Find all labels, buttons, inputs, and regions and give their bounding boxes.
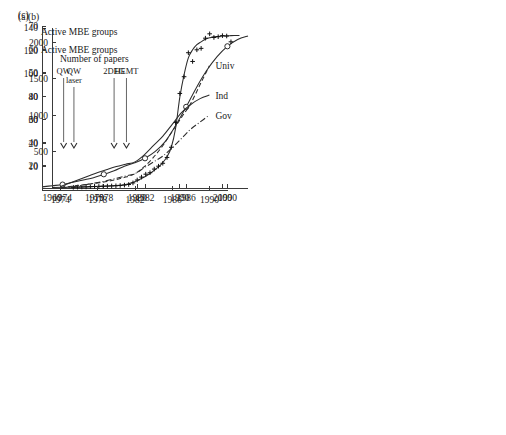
x-tick-label: 1978	[88, 195, 107, 205]
x-tick-label: 1990	[200, 195, 219, 205]
y-tick-label: 70	[29, 21, 39, 31]
figure-root: (a) Active MBE groups 204060801001201401…	[0, 0, 506, 435]
panel-c-annotation: Active MBE groups	[41, 27, 118, 37]
y-tick-label: 20	[29, 139, 39, 149]
y-tick-label: 10	[29, 162, 39, 172]
panel-c-plot-area: 1020304050607019741978198219861990UnivIn…	[29, 21, 235, 205]
panel-c-series-label-univ: Univ	[215, 61, 234, 71]
y-tick-label: 50	[29, 68, 39, 78]
panel-c-series-univ	[61, 66, 210, 188]
y-tick-label: 40	[29, 92, 39, 102]
x-tick-label: 1974	[51, 195, 70, 205]
panel-c-chart: (c) Active MBE groups 102030405060701974…	[0, 0, 506, 222]
x-tick-label: 1986	[163, 195, 182, 205]
panel-c-series-label-ind: Ind	[215, 91, 228, 101]
y-tick-label: 30	[29, 115, 39, 125]
y-tick-label: 60	[29, 45, 39, 55]
panel-c-series-label-gov: Gov	[215, 111, 232, 121]
panel-c-label: (c)	[18, 10, 29, 21]
panel-c-series-gov	[61, 115, 210, 188]
x-tick-label: 1982	[126, 195, 145, 205]
